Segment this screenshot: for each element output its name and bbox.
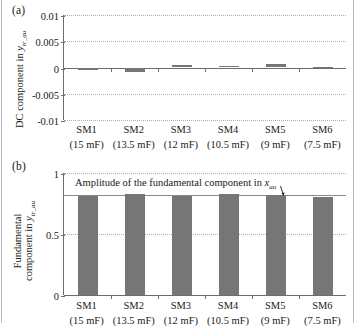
bar-slot <box>299 15 346 120</box>
category-label-name: SM1 <box>76 300 96 311</box>
bar-slot <box>252 173 299 295</box>
category-label-SM4: SM4(10.5 mF) <box>205 122 252 152</box>
panel-a-gridline-neg0.01: -0.01 <box>64 120 346 121</box>
axis-tick <box>252 68 253 72</box>
axis-tick <box>299 68 300 72</box>
axis-tick <box>111 68 112 72</box>
panel-b-annotation-subscript: au <box>269 183 276 191</box>
category-label-name: SM2 <box>124 300 144 311</box>
category-label-SM5: SM5(9 mF) <box>252 122 299 152</box>
panel-a-plot-area: 0.01 0.005 0 -0.005 -0.01 <box>63 15 346 120</box>
panel-b-ytick-label-1: 0.5 <box>46 230 59 241</box>
panel-b-plot-area: 1 0.5 0 <box>63 173 346 295</box>
panel-a-y-axis-title: DC component in ytr_au <box>14 8 28 128</box>
panel-a-ytick-label-3: -0.005 <box>32 89 59 100</box>
category-label-SM2: SM2(13.5 mF) <box>110 122 157 152</box>
category-label-capacitance: (9 mF) <box>252 313 299 328</box>
category-label-name: SM6 <box>312 124 332 135</box>
category-label-SM3: SM3(12 mF) <box>157 122 204 152</box>
panel-b-annotation-text: Amplitude of the fundamental component i… <box>75 177 265 188</box>
bar-slot <box>252 15 299 120</box>
panel-a-y-axis-title-text: DC component in <box>14 51 25 128</box>
bar-slot <box>64 173 111 295</box>
category-label-SM4: SM4(10.5 mF) <box>205 298 252 328</box>
category-label-SM1: SM1(15 mF) <box>63 122 110 152</box>
bar-SM3 <box>172 65 192 67</box>
category-label-name: SM4 <box>218 124 238 135</box>
category-label-capacitance: (13.5 mF) <box>110 137 157 152</box>
bar-SM1 <box>78 196 98 295</box>
bar-SM2 <box>125 68 145 72</box>
category-label-SM1: SM1(15 mF) <box>63 298 110 328</box>
category-label-name: SM1 <box>76 124 96 135</box>
panel-b-y-axis-title-line2: component in <box>23 221 34 281</box>
panel-a-y-axis-variable: y <box>14 46 25 51</box>
category-label-SM6: SM6(7.5 mF) <box>299 122 346 152</box>
bar-slot <box>111 15 158 120</box>
bar-slot <box>158 15 205 120</box>
category-label-capacitance: (7.5 mF) <box>299 313 346 328</box>
category-label-name: SM5 <box>265 124 285 135</box>
axis-tick <box>158 68 159 72</box>
panel-b: (b) Fundamental component in ytr_au 1 0.… <box>0 158 355 323</box>
panel-a-ytick-label-0: 0.01 <box>41 11 59 22</box>
bar-slot <box>205 173 252 295</box>
bar-SM2 <box>125 194 145 295</box>
category-label-name: SM6 <box>312 300 332 311</box>
bar-slot <box>158 173 205 295</box>
bar-SM3 <box>172 196 192 295</box>
category-label-SM2: SM2(13.5 mF) <box>110 298 157 328</box>
category-label-capacitance: (15 mF) <box>63 137 110 152</box>
category-label-capacitance: (9 mF) <box>252 137 299 152</box>
bar-slot <box>111 173 158 295</box>
panel-a-ytick-label-2: 0 <box>54 63 59 74</box>
panel-b-y-axis-title: Fundamental component in ytr_au <box>12 176 37 306</box>
category-label-name: SM5 <box>265 300 285 311</box>
category-label-SM5: SM5(9 mF) <box>252 298 299 328</box>
bar-slot <box>299 173 346 295</box>
panel-b-y-axis-title-line1: Fundamental <box>12 214 23 269</box>
panel-a-ytick-label-1: 0.005 <box>35 37 59 48</box>
panel-b-annotation: Amplitude of the fundamental component i… <box>75 177 276 191</box>
panel-a-y-axis-subscript: tr_au <box>20 31 28 46</box>
panel-b-ytick-label-0: 1 <box>54 169 59 180</box>
category-label-capacitance: (7.5 mF) <box>299 137 346 152</box>
bar-SM5 <box>266 195 286 295</box>
panel-b-tag: (b) <box>12 160 26 172</box>
bar-SM4 <box>219 66 239 67</box>
category-label-capacitance: (12 mF) <box>157 137 204 152</box>
category-label-name: SM3 <box>171 300 191 311</box>
bar-slot <box>205 15 252 120</box>
category-label-name: SM4 <box>218 300 238 311</box>
category-label-SM3: SM3(12 mF) <box>157 298 204 328</box>
panel-b-ytick-label-2: 0 <box>54 291 59 302</box>
category-label-name: SM3 <box>171 124 191 135</box>
category-label-capacitance: (10.5 mF) <box>205 137 252 152</box>
bar-SM6 <box>313 197 333 295</box>
category-label-capacitance: (10.5 mF) <box>205 313 252 328</box>
category-label-name: SM2 <box>124 124 144 135</box>
bar-SM1 <box>78 68 98 71</box>
panel-b-bars <box>64 173 346 295</box>
panel-b-y-axis-variable: y <box>23 216 34 221</box>
bar-slot <box>64 15 111 120</box>
bar-SM6 <box>313 67 333 68</box>
bar-SM5 <box>266 64 286 68</box>
panel-a-bars <box>64 15 346 120</box>
category-label-SM6: SM6(7.5 mF) <box>299 298 346 328</box>
panel-a: (a) DC component in ytr_au 0.01 0.005 0 … <box>0 0 355 150</box>
panel-b-annotation-arrow-icon <box>279 186 286 196</box>
category-label-capacitance: (15 mF) <box>63 313 110 328</box>
category-label-capacitance: (12 mF) <box>157 313 204 328</box>
bar-SM4 <box>219 194 239 295</box>
panel-b-y-axis-subscript: tr_au <box>29 201 37 216</box>
axis-tick <box>205 68 206 72</box>
category-label-capacitance: (13.5 mF) <box>110 313 157 328</box>
panel-a-ytick-label-4: -0.01 <box>37 116 59 127</box>
